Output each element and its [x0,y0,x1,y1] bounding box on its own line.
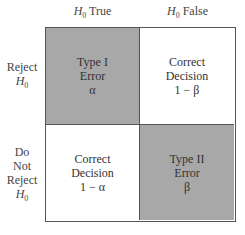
subscript: 0 [24,81,28,90]
cell-line: β [170,180,205,194]
cell-line: 1 − β [166,83,209,97]
row-header-do-not-reject: Do Not Reject H0 [0,145,44,206]
cell-line: α [77,83,108,97]
cell-type-1-error: Type I Error α [46,28,140,125]
cell-correct-decision-power: Correct Decision 1 − β [140,28,234,125]
column-label: True [89,4,111,18]
cell-line: Correct [166,55,209,69]
cell-correct-decision-confidence: Correct Decision 1 − α [46,125,140,220]
cell-line: Decision [166,69,209,83]
subscript: 0 [24,194,28,203]
subscript: 0 [176,11,180,20]
subscript: 0 [82,11,86,20]
cell-line: Error [170,166,205,180]
column-header-h0-false: H0 False [140,4,235,20]
cell-line: 1 − α [71,180,114,194]
row-label: Do [0,145,44,159]
h-symbol: H [167,4,176,18]
cell-line: Type I [77,55,108,69]
cell-line: Decision [71,166,114,180]
row-label: Reject [0,173,44,187]
row-label: Not [0,159,44,173]
column-header-h0-true: H0 True [45,4,140,20]
decision-matrix: Type I Error α Correct Decision 1 − β Co… [45,27,236,222]
cell-type-2-error: Type II Error β [140,125,234,220]
cell-line: Correct [71,152,114,166]
cell-line: Type II [170,152,205,166]
h-symbol: H [74,4,83,18]
row-label: Reject [0,60,44,74]
cell-line: Error [77,69,108,83]
row-header-reject: Reject H0 [0,60,44,93]
column-label: False [183,4,208,18]
